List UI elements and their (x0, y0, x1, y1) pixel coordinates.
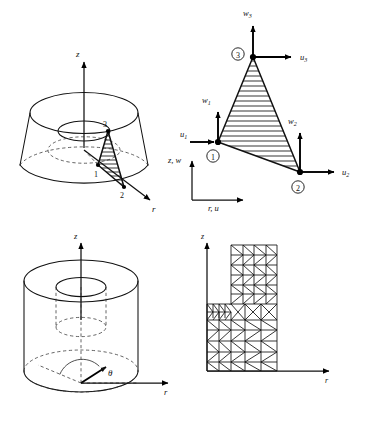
dof-w3-label: w3 (243, 8, 252, 19)
theta-angle-label: θ (108, 368, 113, 378)
panel-b-node-2-label: 2 (296, 184, 300, 193)
panel-b-reference-axes: z, w r, u (167, 155, 243, 213)
panel-b-node-1: 1 w1 u1 (180, 95, 221, 162)
theta-sweep-ray (81, 367, 106, 383)
dof-u3-label: u3 (300, 52, 307, 63)
panel-a-node-1-dot (96, 163, 100, 167)
panel-a-r-axis-label: r (152, 204, 156, 214)
mesh-interior-elements (207, 245, 277, 371)
theta-arc (60, 359, 99, 374)
panel-a-node-3-dot (106, 129, 110, 133)
panel-c-r-axis-label: r (164, 387, 168, 397)
panel-a-element-triangle (98, 131, 124, 187)
dof-w2-label: w2 (288, 116, 297, 127)
panel-a-node-2-dot (122, 185, 126, 189)
panel-a-node-2-label: 2 (120, 191, 124, 200)
panel-a-node-3-label: 3 (103, 120, 107, 129)
panel-a-node-1-label: 1 (94, 170, 98, 179)
cone-bottom-back-arc (20, 147, 148, 165)
panel-b-element-triangle (218, 57, 300, 172)
dof-w1-label: w1 (202, 95, 211, 106)
cone-bottom-front-arc (20, 165, 148, 183)
panel-c-z-axis-label: z (73, 231, 78, 241)
panel-a-r-axis: r (84, 150, 156, 214)
panel-d-r-axis: r (207, 371, 329, 385)
panel-a-conical-solid: z (20, 49, 156, 214)
figure-root: z (0, 0, 373, 430)
panel-a-z-axis-label: z (75, 49, 80, 59)
panel-d-r-axis-label: r (325, 376, 329, 385)
panel-b-element-dof: 3 w3 u3 1 w1 (167, 8, 349, 213)
panel-b-node-3-label: 3 (236, 51, 240, 60)
panel-c-z-axis: z (73, 231, 81, 320)
cone-right-wall (138, 113, 148, 165)
panel-c-cylinder: z θ (24, 231, 168, 397)
panel-d-z-axis: z (200, 232, 207, 371)
dof-u2-label: u2 (342, 167, 349, 178)
panel-b-node-2: 2 w2 u2 (288, 116, 349, 193)
panel-d-fe-mesh: z (200, 232, 329, 385)
panel-b-node-1-label: 1 (211, 153, 215, 162)
cone-left-wall (20, 113, 30, 165)
panel-d-z-axis-label: z (200, 232, 205, 241)
theta-start-ray (38, 365, 81, 383)
panel-b-node-3: 3 w3 u3 (232, 8, 307, 63)
panel-b-z-axis-label: z, w (167, 155, 182, 165)
technical-figure: z (0, 0, 373, 430)
panel-b-r-axis-label: r, u (208, 203, 219, 213)
dof-u1-label: u1 (180, 129, 187, 140)
